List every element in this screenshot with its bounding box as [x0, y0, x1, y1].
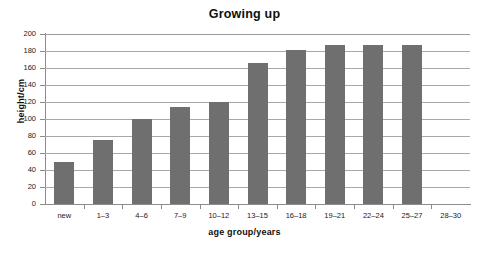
y-axis-tick-label: 180 [0, 47, 36, 55]
x-axis-tick-label: new [45, 212, 84, 220]
y-axis-tick-label: 100 [0, 115, 36, 123]
y-axis-tick-label: 0 [0, 200, 36, 208]
x-axis-line [45, 204, 471, 205]
y-axis-tick-label: 40 [0, 166, 36, 174]
x-axis-tick-label: 25–27 [393, 212, 432, 220]
x-axis-tick [200, 205, 201, 209]
x-axis-tick-label: 28–30 [431, 212, 470, 220]
bar [402, 45, 422, 204]
x-axis-tick [122, 205, 123, 209]
x-axis-tick [315, 205, 316, 209]
x-axis-tick [277, 205, 278, 209]
x-axis-tick [393, 205, 394, 209]
bar [325, 45, 345, 204]
bar [170, 107, 190, 204]
plot-area [45, 34, 470, 204]
bar [132, 119, 152, 204]
x-axis-tick-label: 1–3 [84, 212, 123, 220]
x-axis-tick [431, 205, 432, 209]
x-axis-tick [84, 205, 85, 209]
y-axis-tick-label: 200 [0, 30, 36, 38]
x-axis-tick-label: 7–9 [161, 212, 200, 220]
y-axis-tick-label: 120 [0, 98, 36, 106]
y-axis-tick-label: 20 [0, 183, 36, 191]
bar [286, 50, 306, 204]
chart-title: Growing up [0, 7, 489, 21]
x-axis-title: age group/years [0, 227, 489, 237]
x-axis-tick [238, 205, 239, 209]
gridline [45, 34, 470, 35]
y-axis-tick-label: 80 [0, 132, 36, 140]
x-axis-tick-label: 22–24 [354, 212, 393, 220]
bar-chart: Growing up height/cm age group/years 200… [0, 0, 489, 256]
bar [363, 45, 383, 204]
x-axis-tick [354, 205, 355, 209]
y-axis-tick-label: 140 [0, 81, 36, 89]
x-axis-tick-label: 19–21 [315, 212, 354, 220]
y-axis-tick-label: 160 [0, 64, 36, 72]
x-axis-tick [161, 205, 162, 209]
x-axis-tick-label: 13–15 [238, 212, 277, 220]
y-axis-tick [40, 204, 45, 205]
bar [54, 162, 74, 205]
x-axis-tick-label: 4–6 [122, 212, 161, 220]
y-axis-tick-label: 60 [0, 149, 36, 157]
bar [248, 63, 268, 204]
x-axis-tick-label: 16–18 [277, 212, 316, 220]
bar [209, 102, 229, 204]
bar [93, 140, 113, 204]
x-axis-tick-label: 10–12 [200, 212, 239, 220]
